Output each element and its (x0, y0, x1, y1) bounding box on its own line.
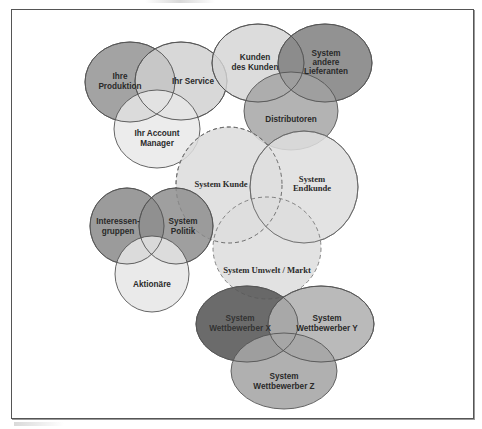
label-kunden-des-kunden-2: des Kunden (232, 63, 279, 72)
caption-artifact (14, 422, 64, 426)
label-wettbewerber-z-1: System (269, 372, 298, 381)
label-system-kunde: System Kunde (194, 179, 247, 189)
label-interessengruppen-1: Interessen- (96, 217, 140, 226)
circle-aktionaere (115, 236, 189, 312)
label-endkunde-2: Endkunde (293, 183, 331, 193)
label-wettbewerber-y-2: Wettbewerber Y (296, 324, 358, 333)
label-wettbewerber-z-2: Wettbewerber Z (253, 382, 314, 391)
label-lieferanten-2: andere (313, 58, 340, 67)
label-distributoren: Distributoren (265, 115, 316, 124)
label-account-manager-2: Manager (140, 139, 174, 148)
circle-wettbewerber-z (231, 333, 337, 409)
label-wettbewerber-x-2: Wettbewerber X (209, 324, 271, 333)
label-lieferanten-3: Lieferanten (304, 67, 348, 76)
label-ihre-produktion-1: Ihre (112, 72, 127, 81)
label-ihr-service: Ihr Service (172, 77, 214, 86)
label-wettbewerber-x-1: System (225, 314, 254, 323)
label-umwelt-markt: System Umwelt / Markt (223, 265, 311, 275)
label-lieferanten-1: System (311, 49, 340, 58)
label-ihre-produktion-2: Produktion (98, 82, 141, 91)
venn-diagram: Ihre Produktion Ihr Service Ihr Account … (0, 0, 482, 429)
circle-system-umwelt-markt (213, 197, 321, 299)
label-politik-2: Politik (171, 227, 196, 236)
label-interessengruppen-2: gruppen (102, 227, 135, 236)
label-politik-1: System (168, 217, 197, 226)
label-wettbewerber-y-1: System (312, 314, 341, 323)
label-account-manager-1: Ihr Account (134, 129, 179, 138)
label-kunden-des-kunden-1: Kunden (240, 53, 270, 62)
label-aktionaere: Aktionäre (133, 280, 171, 289)
group-umfeld (90, 188, 213, 312)
